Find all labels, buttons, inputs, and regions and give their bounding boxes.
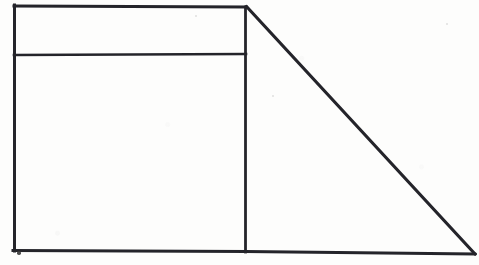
rectangle-top-edge [14, 6, 246, 7]
geometric-figure-drawing [0, 0, 479, 265]
triangle-base-edge [245, 252, 476, 255]
rectangle-bottom-edge [13, 251, 246, 252]
figure-canvas [0, 0, 479, 265]
horizontal-divider-line [14, 54, 246, 55]
triangle-hypotenuse [247, 7, 476, 255]
